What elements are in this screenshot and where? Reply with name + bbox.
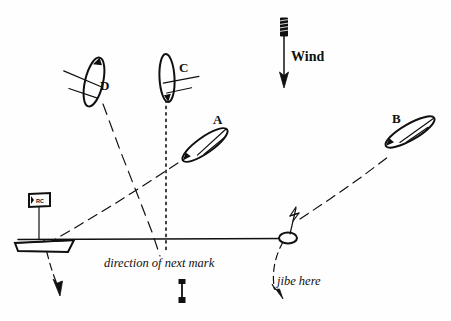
track-jibe-exit [272, 242, 283, 299]
left-exit-arrowhead [53, 279, 63, 296]
track-B [300, 157, 388, 219]
mark-buoy [279, 207, 299, 244]
boat-B [382, 111, 438, 153]
sailing-tactics-diagram: Wind [0, 0, 451, 321]
committee-flag-label: RC [36, 198, 44, 204]
wind-label: Wind [291, 49, 324, 64]
committee-boat: RC [15, 193, 74, 252]
start-line [18, 239, 288, 240]
wind-arrow-icon [279, 18, 289, 88]
boat-A [178, 123, 231, 167]
direction-of-next-mark-label: direction of next mark [104, 256, 215, 270]
boat-label-D: D [100, 78, 109, 93]
boat-label-A: A [213, 112, 223, 127]
boat-label-B: B [392, 111, 401, 126]
track-A [47, 161, 181, 244]
diagram-canvas: Wind [0, 0, 451, 321]
jibe-here-label: jibe here [275, 274, 321, 288]
next-mark-direction-marker [179, 279, 186, 303]
boat-label-C: C [179, 60, 188, 75]
